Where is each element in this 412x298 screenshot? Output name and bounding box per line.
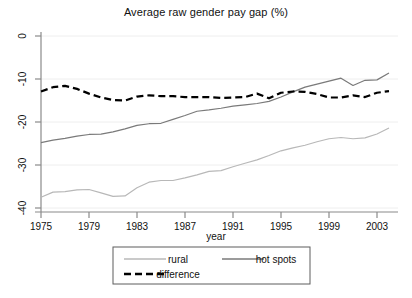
x-tick-label: 1987 [174,221,197,232]
series-line-hot-spots [41,73,389,143]
x-tick-label: 1999 [318,221,341,232]
y-tick-label: -20 [17,114,28,129]
x-tick-label: 2003 [366,221,389,232]
y-tick-label: -30 [17,157,28,172]
series-line-rural [41,128,389,197]
x-axis-label: year [206,231,226,242]
x-axis-ticks: 19751979198319871991199519992003 [30,212,389,232]
chart-legend[interactable]: ruralhot spotsdifference [113,247,310,284]
x-tick-label: 1983 [126,221,149,232]
x-tick-label: 1995 [270,221,293,232]
legend-label-hot-spots[interactable]: hot spots [256,254,297,265]
series-line-difference [41,86,389,101]
gridlines [41,36,398,208]
y-tick-label: -40 [17,200,28,215]
figure-caption [0,286,412,298]
y-tick-label: -10 [17,71,28,86]
y-axis-ticks: 0-10-20-30-40 [17,33,42,215]
legend-label-rural[interactable]: rural [168,254,188,265]
y-tick-label: 0 [17,33,28,39]
figure-container: Average raw gender pay gap (%) 0-10-20-3… [0,0,412,298]
chart-plot-area: 0-10-20-30-40 19751979198319871991199519… [0,0,412,298]
data-series-group [41,73,389,197]
x-tick-label: 1975 [30,221,53,232]
x-tick-label: 1979 [78,221,101,232]
legend-label-difference[interactable]: difference [156,269,200,280]
